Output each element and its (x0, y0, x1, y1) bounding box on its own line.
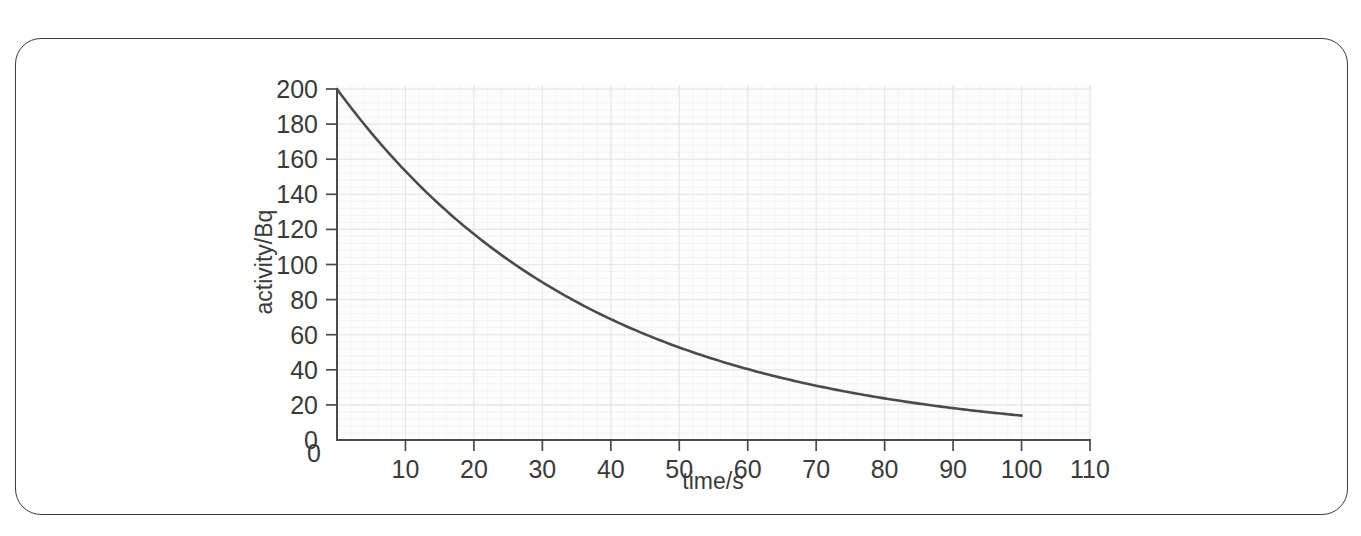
y-tick-label: 80 (290, 286, 318, 314)
x-tick-label: 100 (1001, 455, 1043, 483)
x-tick-label: 70 (802, 455, 830, 483)
y-tick-label: 200 (276, 75, 318, 103)
y-tick-label: 160 (276, 145, 318, 173)
x-tick-label: 30 (528, 455, 556, 483)
y-axis-ticks: 020406080100120140160180200 (276, 75, 337, 454)
chart-svg: 020406080100120140160180200 010203040506… (0, 0, 1361, 536)
x-axis-title: time/s (682, 468, 743, 494)
activity-decay-chart: 020406080100120140160180200 010203040506… (0, 0, 1361, 536)
x-tick-label: 0 (307, 439, 321, 467)
y-tick-label: 20 (290, 391, 318, 419)
y-tick-label: 120 (276, 215, 318, 243)
y-tick-label: 100 (276, 251, 318, 279)
x-tick-label: 10 (392, 455, 420, 483)
x-tick-label: 110 (1070, 455, 1110, 483)
page-root: 020406080100120140160180200 010203040506… (0, 0, 1361, 536)
x-tick-label: 80 (871, 455, 899, 483)
y-tick-label: 40 (290, 356, 318, 384)
y-axis-title: activity/Bq (251, 210, 277, 315)
x-tick-label: 20 (460, 455, 488, 483)
x-tick-label: 40 (597, 455, 625, 483)
x-tick-label: 90 (939, 455, 967, 483)
y-tick-label: 180 (276, 110, 318, 138)
y-tick-label: 60 (290, 321, 318, 349)
y-tick-label: 140 (276, 180, 318, 208)
